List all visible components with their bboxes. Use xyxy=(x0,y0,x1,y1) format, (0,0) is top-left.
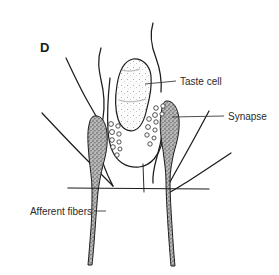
label-taste-cell: Taste cell xyxy=(180,76,222,87)
panel-letter: D xyxy=(40,40,49,55)
label-afferent-fibers: Afferent fibers xyxy=(30,206,92,217)
taste-bud-figure: D xyxy=(0,0,279,275)
figure-canvas: D xyxy=(0,0,279,275)
label-synapse: Synapse xyxy=(228,111,267,122)
